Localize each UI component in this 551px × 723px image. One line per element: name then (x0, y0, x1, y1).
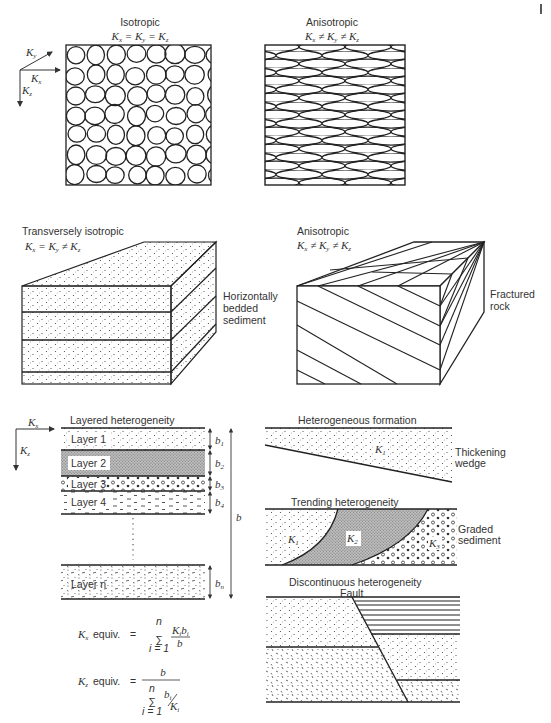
svg-text:=: = (130, 628, 136, 640)
hydraulic-conductivity-diagram: Isotropic Kx = Ky = Kz Ky Kx Kz Anisotro… (0, 0, 551, 723)
svg-text:Kx: Kx (30, 72, 42, 86)
transversely-isotropic-title: Transversely isotropic (22, 225, 124, 237)
fractured-label-line1: Fractured (490, 288, 535, 300)
svg-text:b1: b1 (215, 434, 224, 448)
side-label-line3: sediment (223, 314, 266, 326)
fractured-rock-panel: Anisotropic Kx ≠ Ky ≠ Kz (296, 225, 535, 384)
svg-text:Layer 4: Layer 4 (71, 496, 106, 508)
svg-text:Kibi: Kibi (171, 624, 189, 638)
anisotropic-equation: Kx ≠ Ky ≠ Kz (304, 30, 359, 44)
side-label-line2: bedded (223, 302, 258, 314)
transversely-isotropic-equation: Kx = Ky ≠ Kz (24, 240, 81, 254)
kz-equivalent-formula: Kz equiv. = b n ∑ i = 1 bi Ki (77, 666, 180, 717)
layered-heterogeneity-panel: Kx Kz Layered heterogeneity Layer 1 Laye… (16, 414, 242, 717)
thickness-arrows (210, 429, 231, 598)
kx-equivalent-formula: Kx equiv. = n ∑ i = 1 Kibi b (77, 615, 190, 654)
svg-text:=: = (130, 675, 136, 687)
fractured-rock-title: Anisotropic (297, 225, 349, 237)
svg-text:b: b (177, 637, 183, 649)
svg-text:equiv.: equiv. (93, 675, 120, 687)
layered-title: Layered heterogeneity (70, 414, 175, 426)
isotropic-title: Isotropic (120, 16, 160, 28)
svg-text:bn: bn (215, 577, 225, 591)
discontinuous-heterogeneity-panel: Discontinuous heterogeneity Fault (266, 576, 460, 702)
isotropic-panel: Isotropic Kx = Ky = Kz Ky Kx Kz (20, 16, 227, 185)
svg-text:Ki: Ki (169, 700, 179, 714)
trending-heterogeneity-panel: Trending heterogeneity K1 K2 K3 Graded s… (265, 496, 501, 565)
svg-text:b4: b4 (215, 496, 225, 510)
fractured-rock-equation: Kx ≠ Ky ≠ Kz (296, 239, 351, 253)
heterogeneous-formation-title: Heterogeneous formation (298, 414, 417, 426)
trending-title: Trending heterogeneity (291, 496, 399, 508)
svg-text:b: b (160, 666, 166, 678)
graded-label-line2: sediment (458, 534, 501, 546)
svg-text:n: n (156, 615, 162, 627)
heterogeneous-formation-panel: Heterogeneous formation K1 Thickening we… (265, 414, 506, 482)
wedge-label-line2: wedge (454, 457, 486, 469)
svg-text:Layer 1: Layer 1 (71, 433, 106, 445)
svg-text:Kx: Kx (77, 628, 89, 642)
isotropic-equation: Kx = Ky = Kz (111, 30, 169, 44)
elongated-grains-box (265, 45, 405, 185)
side-label-line1: Horizontally (223, 290, 279, 302)
svg-text:Layer n: Layer n (71, 578, 106, 590)
svg-text:Kz: Kz (19, 444, 30, 458)
svg-text:Kz: Kz (77, 675, 88, 689)
anisotropic-grains-panel: Anisotropic Kx ≠ Ky ≠ Kz (265, 16, 405, 185)
svg-text:Ky: Ky (25, 46, 37, 60)
svg-text:i = 1: i = 1 (149, 642, 169, 654)
total-thickness-label: b (236, 511, 242, 523)
svg-text:n: n (149, 682, 155, 694)
svg-text:i = 1: i = 1 (142, 705, 162, 717)
svg-text:Kx: Kx (27, 416, 39, 430)
transversely-isotropic-panel: Transversely isotropic Kx = Ky ≠ Kz Hori… (22, 225, 279, 384)
svg-text:Layer 2: Layer 2 (71, 457, 106, 469)
svg-text:b2: b2 (215, 457, 225, 471)
svg-text:Layer 3: Layer 3 (71, 478, 106, 490)
anisotropic-title: Anisotropic (306, 16, 358, 28)
fractured-label-line2: rock (490, 300, 511, 312)
axes-icon: Ky Kx Kz (20, 46, 60, 106)
axes-icon-2d: Kx Kz (16, 416, 54, 470)
svg-text:equiv.: equiv. (93, 628, 120, 640)
svg-text:b3: b3 (215, 478, 225, 492)
round-grains-box (65, 44, 226, 185)
svg-text:Kz: Kz (21, 84, 32, 98)
